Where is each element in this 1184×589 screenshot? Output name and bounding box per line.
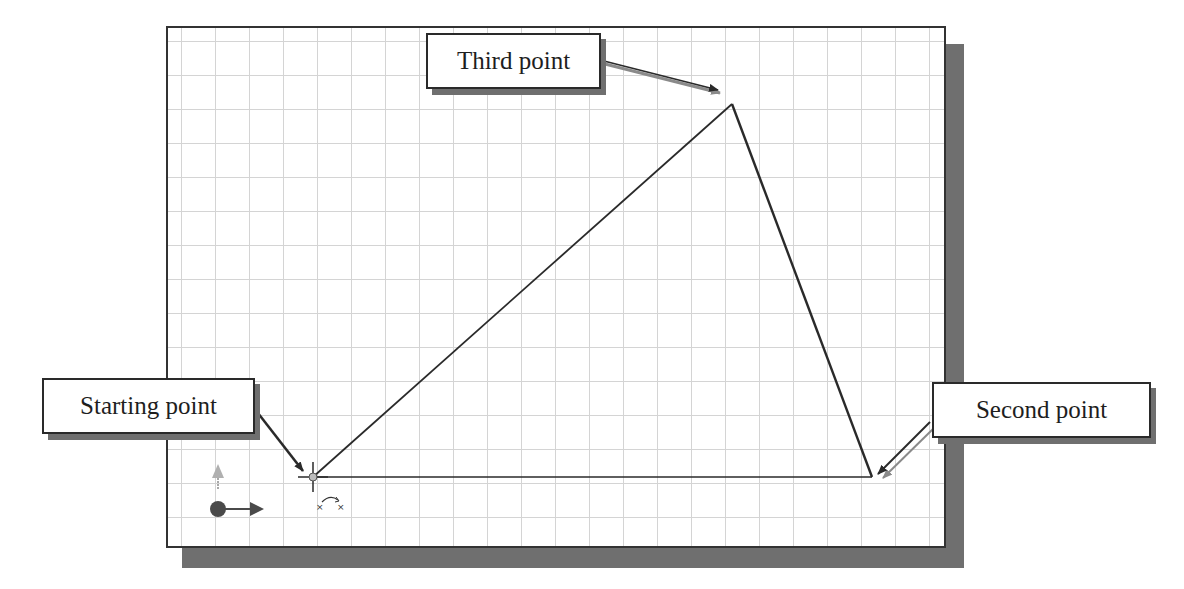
sketch-triangle[interactable]: [313, 104, 872, 477]
svg-text:×: ×: [337, 502, 345, 512]
origin-dot-icon: [210, 501, 226, 517]
svg-text:×: ×: [316, 502, 324, 512]
second-point-arrow-icon: [878, 422, 934, 478]
origin-triad-icon: [210, 464, 264, 517]
starting-point-arrow-icon: [254, 408, 303, 471]
starting-point-label: Starting point: [80, 392, 217, 420]
y-axis-arrow-icon: [212, 464, 224, 478]
starting-point-callout: Starting point: [42, 378, 255, 434]
second-point-label: Second point: [976, 396, 1107, 424]
third-point-label: Third point: [457, 47, 570, 75]
third-point-callout: Third point: [426, 33, 601, 89]
coincident-relation-icon: × ×: [316, 497, 345, 512]
line-second-to-third[interactable]: [732, 104, 872, 477]
third-point-arrow-icon: [600, 60, 720, 93]
line-third-to-start[interactable]: [313, 104, 732, 477]
second-point-callout: Second point: [932, 382, 1151, 438]
x-axis-arrow-icon: [250, 502, 264, 516]
